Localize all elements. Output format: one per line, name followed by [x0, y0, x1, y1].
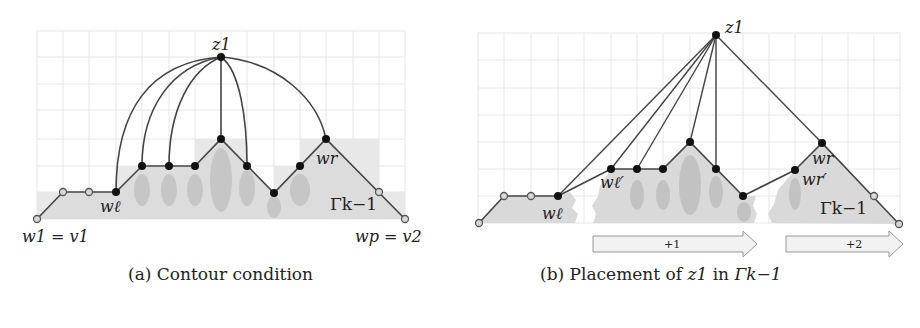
caption-b-prefix: (b) Placement of: [540, 264, 687, 284]
caption-b-gamma: Γk−1: [734, 264, 781, 284]
label-z1-a: z1: [211, 35, 231, 54]
diagram-b: +1 +2 z1 wℓ wℓ′ wr wr′ Γk−1: [460, 0, 920, 260]
label-w-ell-b: wℓ: [542, 204, 563, 223]
caption-b-mid: in: [707, 264, 734, 284]
label-w-r-b: wr: [812, 149, 835, 168]
label-gamma-a: Γk−1: [330, 194, 377, 214]
arrow-label-plus1: +1: [664, 238, 680, 251]
panel-b-placement-of-z1: +1 +2 z1 wℓ wℓ′ wr wr′ Γk−1 (b) Placemen…: [460, 0, 920, 328]
caption-b-var: z1: [687, 264, 707, 284]
caption-b: (b) Placement of z1 in Γk−1: [540, 264, 782, 284]
caption-a: (a) Contour condition: [128, 264, 313, 284]
label-w-ell-prime: wℓ′: [600, 173, 624, 192]
label-gamma-b: Γk−1: [820, 198, 867, 218]
label-w1-v1: w1 = v1: [22, 227, 89, 246]
arrow-label-plus2: +2: [846, 238, 862, 251]
shift-arrow-plus2: +2: [786, 231, 903, 257]
panel-a-contour-condition: z1 wℓ wr w1 = v1 wp = v2 Γk−1 (a) Contou…: [0, 0, 460, 328]
label-w-r-a: wr: [316, 149, 339, 168]
shift-arrow-plus1: +1: [593, 231, 757, 257]
diagram-a: z1 wℓ wr w1 = v1 wp = v2 Γk−1: [0, 0, 460, 260]
label-w-r-prime: wr′: [802, 170, 827, 189]
label-w-ell-a: wℓ: [100, 197, 121, 216]
label-z1-b: z1: [724, 18, 744, 37]
label-wp-v2: wp = v2: [355, 227, 422, 246]
